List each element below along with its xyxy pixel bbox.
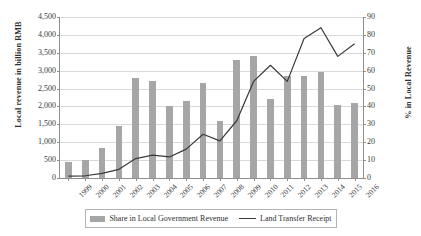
legend-item-bar: Share in Local Government Revenue — [90, 214, 228, 223]
x-axis-tick-label: 2000 — [95, 183, 111, 199]
y-axis-left-tick-label: 4,000 — [38, 31, 56, 39]
y-axis-left-tick-label: 3,000 — [38, 67, 56, 75]
x-axis-tick-label: 2003 — [145, 183, 161, 199]
x-axis-tick-label: 2001 — [112, 183, 128, 199]
y-axis-left-tick-label: 4,500 — [38, 13, 56, 21]
x-axis-tick-label: 2006 — [196, 183, 212, 199]
y-axis-right-tick-label: 80 — [367, 31, 375, 39]
y-axis-right-tick-label: 30 — [367, 120, 375, 128]
x-axis-tick-label: 2004 — [162, 183, 178, 199]
x-axis-tick-label: 2013 — [314, 183, 330, 199]
x-axis-tick-label: 1999 — [78, 183, 94, 199]
chart-container: Local revenue in billion RMB % in Local … — [0, 0, 421, 236]
y-axis-title-right: % in Local Revenue — [404, 33, 413, 133]
x-axis-tick-label: 2002 — [128, 183, 144, 199]
y-axis-right-tick-label: 60 — [367, 67, 375, 75]
y-axis-left-tick-label: 2,000 — [38, 102, 56, 110]
x-axis-tick-label: 2009 — [246, 183, 262, 199]
x-axis-tick-label: 2007 — [213, 183, 229, 199]
y-axis-right-line — [363, 17, 364, 178]
legend-item-line: Land Transfer Receipt — [239, 214, 332, 223]
y-axis-right-tick-label: 90 — [367, 13, 375, 21]
y-axis-right-tick-label: 20 — [367, 138, 375, 146]
legend-line-swatch-icon — [239, 218, 256, 219]
x-axis-tick-label: 2008 — [229, 183, 245, 199]
y-axis-left-line — [59, 17, 60, 178]
y-axis-right-tick-label: 70 — [367, 49, 375, 57]
plot-area: 05001,0001,5002,0002,5003,0003,5004,0004… — [60, 17, 363, 178]
x-axis-tick-label: 2015 — [347, 183, 363, 199]
legend-line-label: Land Transfer Receipt — [260, 214, 332, 223]
y-axis-right-tick-label: 50 — [367, 85, 375, 93]
x-axis-tick-label: 2012 — [297, 183, 313, 199]
y-axis-right-tick-label: 40 — [367, 102, 375, 110]
chart-legend: Share in Local Government Revenue Land T… — [85, 209, 337, 228]
y-axis-left-tick-label: 0 — [52, 174, 56, 182]
y-axis-left-tick-label: 1,000 — [38, 138, 56, 146]
y-axis-title-left: Local revenue in billion RMB — [14, 20, 23, 130]
y-axis-left-tick-label: 500 — [44, 156, 56, 164]
line-series — [60, 17, 363, 178]
legend-bar-label: Share in Local Government Revenue — [109, 214, 228, 223]
y-axis-left-tick-label: 2,500 — [38, 85, 56, 93]
line-path — [68, 28, 354, 176]
x-axis-line — [59, 178, 364, 179]
legend-bar-swatch-icon — [90, 216, 105, 222]
y-axis-right-tick-label: 10 — [367, 156, 375, 164]
x-axis-tick-label: 2016 — [364, 183, 380, 199]
x-axis-tick-label: 2005 — [179, 183, 195, 199]
x-axis-tick-label: 2010 — [263, 183, 279, 199]
x-axis-tick-label: 2011 — [280, 183, 296, 199]
y-axis-right-tick-label: 0 — [367, 174, 371, 182]
y-axis-left-tick-label: 3,500 — [38, 49, 56, 57]
x-axis-tick-label: 2014 — [330, 183, 346, 199]
y-axis-left-tick-label: 1,500 — [38, 120, 56, 128]
